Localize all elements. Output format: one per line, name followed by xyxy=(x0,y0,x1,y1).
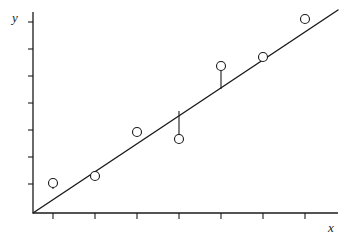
plot-canvas: y x xyxy=(0,0,350,239)
x-axis-label: x xyxy=(327,220,334,235)
y-axis-label: y xyxy=(10,10,18,25)
regression-scatter-figure: y x xyxy=(0,0,350,239)
data-point-marker xyxy=(259,53,268,62)
data-point-marker xyxy=(175,135,184,144)
fit-line xyxy=(33,10,338,213)
data-points xyxy=(49,15,310,188)
data-point-marker xyxy=(49,179,58,188)
data-point-marker xyxy=(301,15,310,24)
data-point-marker xyxy=(217,62,226,71)
data-point-marker xyxy=(133,128,142,137)
data-point-marker xyxy=(91,172,100,181)
regression-line xyxy=(33,10,338,213)
